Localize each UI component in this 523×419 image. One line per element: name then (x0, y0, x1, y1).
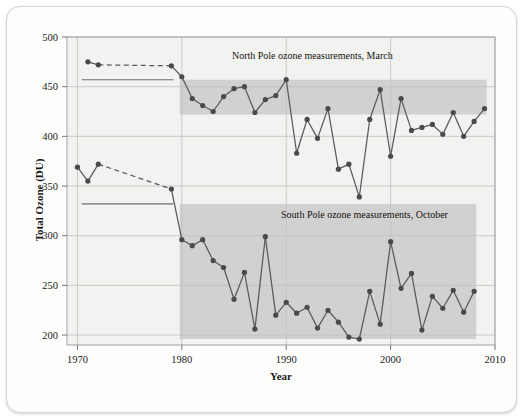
data-point (346, 162, 351, 167)
data-point (190, 96, 195, 101)
y-axis-title: Total Ozone (DU) (33, 158, 46, 241)
data-point (211, 109, 216, 114)
data-point (357, 336, 362, 341)
north-pole-series-label: North Pole ozone measurements, March (232, 50, 393, 61)
data-point (315, 136, 320, 141)
y-tick-label-500: 500 (42, 32, 58, 43)
data-point (472, 289, 477, 294)
data-point (200, 103, 205, 108)
y-tick-label-400: 400 (42, 131, 58, 142)
data-point (336, 167, 341, 172)
data-point (398, 96, 403, 101)
chart-canvas: 2002503003504004505001970198019902000201… (0, 0, 523, 419)
data-point (96, 162, 101, 167)
data-point (409, 271, 414, 276)
data-point (440, 132, 445, 137)
data-point (284, 77, 289, 82)
data-point (221, 94, 226, 99)
data-point (388, 239, 393, 244)
data-point (336, 320, 341, 325)
x-axis-title: Year (270, 370, 292, 382)
y-tick-label-250: 250 (42, 280, 58, 291)
data-point (252, 110, 257, 115)
data-point (169, 63, 174, 68)
x-tick-label-1970: 1970 (67, 354, 88, 365)
data-point (451, 110, 456, 115)
data-point (430, 122, 435, 127)
data-point (398, 286, 403, 291)
data-point (451, 288, 456, 293)
south-pole-series-label: South Pole ozone measurements, October (281, 209, 449, 220)
data-point (304, 305, 309, 310)
data-point (179, 74, 184, 79)
data-point (367, 289, 372, 294)
x-tick-label-1990: 1990 (276, 354, 297, 365)
ozone-chart-figure: 2002503003504004505001970198019902000201… (0, 0, 523, 419)
data-point (367, 117, 372, 122)
data-point (482, 106, 487, 111)
data-point (461, 310, 466, 315)
data-point (190, 243, 195, 248)
data-point (85, 59, 90, 64)
data-point (419, 125, 424, 130)
data-point (440, 306, 445, 311)
data-point (85, 178, 90, 183)
south-pole-pre-depletion-band (180, 204, 476, 339)
data-point (263, 234, 268, 239)
data-point (75, 165, 80, 170)
data-point (430, 294, 435, 299)
data-point (325, 308, 330, 313)
data-point (242, 270, 247, 275)
data-point (221, 265, 226, 270)
data-point (388, 154, 393, 159)
data-point (357, 194, 362, 199)
data-point (284, 300, 289, 305)
data-point (419, 327, 424, 332)
y-tick-label-450: 450 (42, 81, 58, 92)
data-point (231, 86, 236, 91)
data-point (378, 322, 383, 327)
x-tick-label-2000: 2000 (380, 354, 401, 365)
data-point (346, 334, 351, 339)
data-point (315, 326, 320, 331)
data-point (304, 117, 309, 122)
data-point (231, 297, 236, 302)
data-point (96, 62, 101, 67)
data-point (273, 93, 278, 98)
x-tick-label-2010: 2010 (485, 354, 506, 365)
data-point (273, 313, 278, 318)
x-tick-label-1980: 1980 (171, 354, 192, 365)
data-point (211, 258, 216, 263)
data-point (378, 87, 383, 92)
data-point (200, 237, 205, 242)
data-point (263, 97, 268, 102)
data-point (472, 119, 477, 124)
data-point (294, 311, 299, 316)
data-point (294, 151, 299, 156)
data-point (179, 237, 184, 242)
data-point (242, 84, 247, 89)
data-point (169, 186, 174, 191)
data-point (461, 134, 466, 139)
data-point (325, 106, 330, 111)
y-tick-label-200: 200 (42, 330, 58, 341)
data-point (409, 128, 414, 133)
data-point (252, 327, 257, 332)
